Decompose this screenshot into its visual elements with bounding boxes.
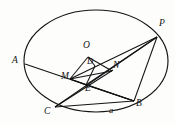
point-label-M: M	[61, 72, 69, 82]
segment-E-P	[86, 37, 157, 85]
point-label-B: B	[136, 99, 142, 109]
point-label-D: D	[87, 57, 93, 66]
point-label-A: A	[12, 56, 18, 66]
segment-label-a: a	[109, 106, 113, 115]
point-label-O: O	[83, 41, 90, 51]
ellipse-outline	[24, 10, 168, 112]
geometry-figure: A P C B O D N M E a	[0, 0, 175, 125]
segment-C-B	[55, 101, 134, 107]
point-label-N: N	[113, 61, 119, 71]
point-label-P: P	[159, 19, 165, 29]
point-label-E: E	[85, 84, 91, 94]
point-label-C: C	[44, 107, 50, 117]
